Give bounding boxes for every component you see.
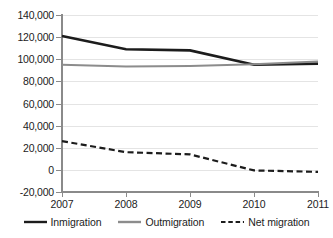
- y-axis-label: -20,000: [0, 186, 54, 198]
- y-axis-label: 140,000: [0, 9, 54, 21]
- legend-label: Net migration: [248, 216, 309, 228]
- legend-swatch-solid-line-icon: [118, 217, 141, 227]
- legend-label: Inmigration: [51, 216, 102, 228]
- x-axis-label: 2009: [179, 198, 202, 210]
- y-axis-label: 60,000: [0, 98, 54, 110]
- chart-legend: InmigrationOutmigrationNet migration: [0, 216, 333, 228]
- x-tick-mark: [126, 192, 127, 197]
- legend-swatch-dashed-line-icon: [221, 217, 244, 227]
- x-tick-mark: [254, 192, 255, 197]
- y-axis-label: 120,000: [0, 31, 54, 43]
- legend-item-inmigration[interactable]: Inmigration: [24, 216, 102, 228]
- x-axis-label: 2008: [115, 198, 138, 210]
- plot-area: [62, 15, 318, 192]
- y-axis-label: 20,000: [0, 142, 54, 154]
- series-line-inmigration: [62, 36, 318, 65]
- series-line-net-migration: [62, 141, 318, 172]
- series-lines: [62, 15, 318, 192]
- series-line-outmigration: [62, 61, 318, 66]
- x-tick-mark: [318, 192, 319, 197]
- migration-line-chart: 140,000120,000100,00080,00060,00040,0002…: [0, 0, 333, 238]
- chart-title: [0, 0, 333, 1]
- x-tick-mark: [62, 192, 63, 197]
- y-axis-label: 40,000: [0, 120, 54, 132]
- y-axis-label: 0: [0, 164, 54, 176]
- y-axis-label: 80,000: [0, 75, 54, 87]
- legend-label: Outmigration: [145, 216, 204, 228]
- x-axis-label: 2010: [243, 198, 266, 210]
- legend-swatch-solid-line-icon: [24, 217, 47, 227]
- legend-item-net-migration[interactable]: Net migration: [221, 216, 309, 228]
- legend-item-outmigration[interactable]: Outmigration: [118, 216, 204, 228]
- y-axis-label: 100,000: [0, 53, 54, 65]
- x-tick-mark: [190, 192, 191, 197]
- x-axis-label: 2011: [307, 198, 329, 210]
- x-axis-label: 2007: [51, 198, 74, 210]
